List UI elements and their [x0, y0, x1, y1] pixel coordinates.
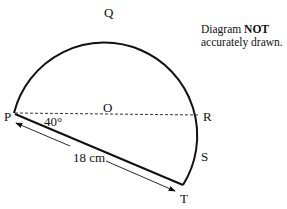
label-Q: Q — [104, 5, 114, 20]
dimension-arrow-end — [106, 161, 175, 191]
label-P: P — [4, 109, 11, 124]
note-prefix: Diagram — [201, 23, 244, 36]
length-label: 18 cm — [73, 150, 105, 165]
label-O: O — [103, 100, 112, 115]
note-bold: NOT — [244, 23, 269, 35]
not-drawn-note-line2: accurately drawn. — [201, 36, 283, 49]
circle-diagram: Q O P R S T 40° 18 cm Diagram NOT accura… — [0, 0, 287, 209]
label-T: T — [180, 191, 188, 206]
angle-label: 40° — [44, 114, 62, 129]
label-S: S — [201, 149, 208, 164]
label-R: R — [203, 109, 212, 124]
not-drawn-note-line1: Diagram NOT — [201, 23, 269, 36]
